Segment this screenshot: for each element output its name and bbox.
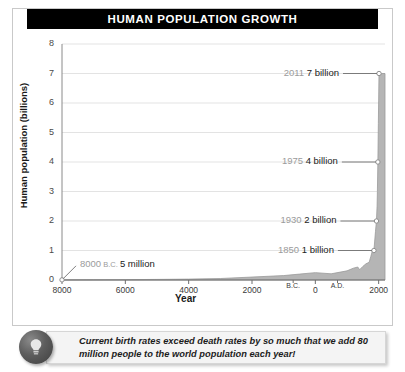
caption-box: Current birth rates exceed death rates b… [46,331,386,364]
annotation-dot [372,248,376,252]
population-growth-chart [0,0,405,372]
annotation-dot [374,219,378,223]
population-area-series [62,74,385,281]
annotation-dot [377,71,381,75]
annotation-dot [376,160,380,164]
gridlines [62,44,385,251]
annotation-leader-line [63,266,76,279]
caption-text: Current birth rates exceed death rates b… [47,335,385,360]
x-axis-ticks [62,280,379,284]
lightbulb-icon [19,330,53,364]
chart-title-banner: HUMAN POPULATION GROWTH [27,9,378,29]
